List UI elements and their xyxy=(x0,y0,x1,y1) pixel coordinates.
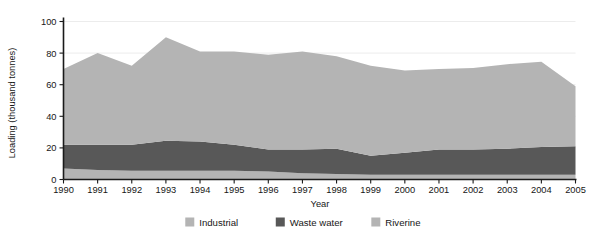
x-tick-label: 2001 xyxy=(429,185,450,195)
x-tick-label: 1990 xyxy=(53,185,74,195)
stacked-area-chart: 1990199119921993199419951996199719981999… xyxy=(0,0,599,249)
x-tick-label: 2000 xyxy=(394,185,415,195)
y-tick-label: 0 xyxy=(51,175,56,185)
chart-canvas: 1990199119921993199419951996199719981999… xyxy=(0,0,599,249)
x-axis-title: Year xyxy=(311,199,330,209)
y-tick-label: 20 xyxy=(46,143,56,153)
x-tick-label: 1997 xyxy=(292,185,313,195)
legend-label: Riverine xyxy=(385,217,420,228)
y-tick-label: 60 xyxy=(46,80,56,90)
legend-swatch xyxy=(276,218,285,227)
x-tick-label: 1991 xyxy=(87,185,108,195)
legend-item-riverine[interactable]: Riverine xyxy=(371,217,420,228)
y-tick-label: 80 xyxy=(46,49,56,59)
x-tick-label: 1994 xyxy=(190,185,211,195)
legend-swatch xyxy=(371,218,380,227)
legend-swatch xyxy=(185,218,194,227)
legend-item-industrial[interactable]: Industrial xyxy=(185,217,238,228)
y-tick-label: 100 xyxy=(41,17,57,27)
x-tick-label: 2002 xyxy=(463,185,484,195)
x-tick-label: 1999 xyxy=(360,185,381,195)
x-tick-label: 1996 xyxy=(258,185,279,195)
x-tick-label: 2005 xyxy=(565,185,586,195)
x-tick-label: 1993 xyxy=(156,185,177,195)
x-tick-label: 1998 xyxy=(326,185,347,195)
x-tick-label: 2003 xyxy=(497,185,518,195)
legend-label: Industrial xyxy=(199,217,238,228)
y-axis-title: Loading (thousand tonnes) xyxy=(7,48,17,159)
chart-legend: IndustrialWaste waterRiverine xyxy=(185,217,420,228)
x-tick-label: 1992 xyxy=(121,185,142,195)
x-tick-label: 2004 xyxy=(531,185,552,195)
x-tick-label: 1995 xyxy=(224,185,245,195)
legend-label: Waste water xyxy=(290,217,344,228)
y-tick-label: 40 xyxy=(46,112,56,122)
